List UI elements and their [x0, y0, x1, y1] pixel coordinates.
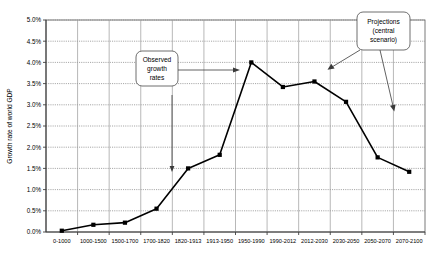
data-point-marker	[91, 223, 95, 227]
y-tick-label: 0.5%	[27, 207, 42, 214]
data-point-marker	[344, 100, 348, 104]
y-tick-label: 4.0%	[27, 59, 42, 66]
x-tick-label: 1700-1820	[143, 238, 170, 244]
data-point-marker	[123, 221, 127, 225]
x-tick-label: 1000-1500	[80, 238, 107, 244]
y-tick-label: 3.5%	[27, 80, 42, 87]
observed-callout-line-1: Observed	[143, 56, 172, 63]
observed-callout-line-2: growth	[147, 65, 167, 73]
data-point-marker	[376, 155, 380, 159]
projections-callout-line-1: Projections	[367, 18, 400, 26]
chart-svg: 0.0%0.5%1.0%1.5%2.0%2.5%3.0%3.5%4.0%4.5%…	[0, 0, 443, 260]
x-tick-label: 1820-1913	[175, 238, 202, 244]
data-point-marker	[218, 153, 222, 157]
data-point-marker	[186, 166, 190, 170]
data-point-marker	[281, 85, 285, 89]
y-tick-label: 1.5%	[27, 165, 42, 172]
gdp-growth-chart: 0.0%0.5%1.0%1.5%2.0%2.5%3.0%3.5%4.0%4.5%…	[0, 0, 443, 260]
projections-callout-line-2: (central	[373, 27, 396, 35]
data-point-marker	[154, 207, 158, 211]
y-tick-label: 4.5%	[27, 38, 42, 45]
y-tick-label: 0.0%	[27, 228, 42, 235]
x-tick-label: 2050-2070	[364, 238, 391, 244]
x-tick-label: 2030-2050	[333, 238, 360, 244]
x-tick-label: 1913-1950	[206, 238, 233, 244]
data-point-marker	[60, 229, 64, 233]
x-tick-label: 0-1000	[53, 238, 70, 244]
data-point-marker	[312, 79, 316, 83]
y-tick-label: 2.0%	[27, 144, 42, 151]
y-axis-title: Growth rate of world GDP	[6, 88, 13, 164]
y-tick-label: 5.0%	[27, 16, 42, 23]
y-tick-label: 1.0%	[27, 186, 42, 193]
projections-callout-line-3: scenario)	[370, 36, 397, 44]
x-tick-label: 1990-2012	[269, 238, 296, 244]
y-tick-label: 3.0%	[27, 101, 42, 108]
x-tick-label: 2012-2030	[301, 238, 328, 244]
data-point-marker	[407, 170, 411, 174]
data-point-marker	[249, 60, 253, 64]
x-tick-label: 1950-1990	[238, 238, 265, 244]
observed-callout-line-3: rates	[150, 74, 165, 81]
x-tick-label: 2070-2100	[396, 238, 423, 244]
y-tick-label: 2.5%	[27, 122, 42, 129]
x-tick-label: 1500-1700	[112, 238, 139, 244]
